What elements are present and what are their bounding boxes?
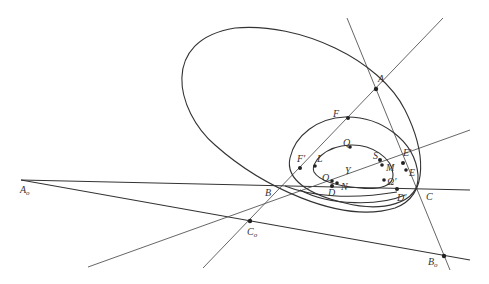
point-Co	[248, 219, 252, 223]
label-D-prime: D'	[396, 192, 407, 203]
label-L: L	[316, 153, 323, 164]
point-Omega-prime	[382, 178, 386, 182]
point-A	[374, 87, 378, 91]
point-Bo	[442, 254, 446, 258]
label-N: N	[340, 181, 349, 192]
label-Co-sub: o	[254, 231, 258, 239]
label-F-prime: F'	[296, 153, 306, 164]
label-Y: Y	[345, 165, 352, 176]
label-Omega-prime: Ω'	[387, 176, 397, 187]
label-D: D	[327, 187, 336, 198]
line-A-B	[203, 18, 443, 268]
point-O	[330, 179, 334, 183]
lines-layer	[21, 18, 470, 270]
label-E-prime: E'	[402, 147, 412, 158]
label-B: B	[265, 187, 271, 198]
labels-layer: A F E' E F' Q L S M Y Ω' O N D D' B C Ao…	[19, 73, 438, 269]
geometry-diagram: A F E' E F' Q L S M Y Ω' O N D D' B C Ao…	[0, 0, 489, 284]
line-Ao-C	[21, 180, 470, 190]
point-F-prime	[298, 166, 302, 170]
line-A-C	[347, 18, 450, 270]
point-M	[380, 163, 384, 167]
point-F	[346, 116, 350, 120]
line-lower-left-E	[88, 130, 470, 267]
point-E	[404, 168, 408, 172]
label-A: A	[377, 73, 385, 84]
label-Bo: Bo	[428, 256, 438, 269]
point-S	[378, 158, 382, 162]
label-Ao: Ao	[19, 184, 30, 197]
point-L	[313, 164, 317, 168]
label-S: S	[373, 150, 378, 161]
label-F: F	[332, 108, 340, 119]
point-N	[335, 181, 339, 185]
point-D-prime	[395, 187, 399, 191]
label-Bo-sub: o	[434, 261, 438, 269]
label-Co: Co	[247, 226, 258, 239]
label-E: E	[408, 167, 415, 178]
label-M: M	[385, 162, 395, 173]
point-E-prime	[401, 161, 405, 165]
label-Ao-sub: o	[26, 189, 30, 197]
label-C: C	[426, 191, 433, 202]
label-O: O	[322, 172, 329, 183]
label-Q: Q	[343, 137, 351, 148]
